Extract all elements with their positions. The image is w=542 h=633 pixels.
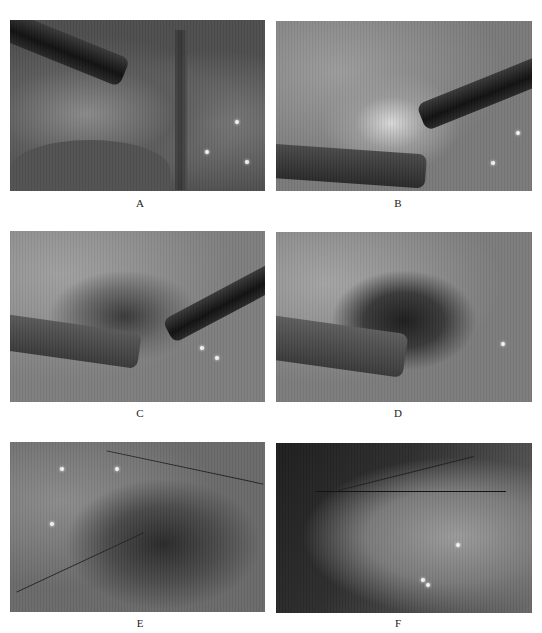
figure-panel-e (10, 442, 265, 612)
panel-label-f: F (388, 617, 408, 629)
panel-label-a: A (130, 197, 150, 209)
figure-panel-b (276, 21, 532, 191)
figure-panel-f (276, 443, 532, 613)
figure-panel-d (276, 232, 532, 402)
panel-label-d: D (388, 407, 408, 419)
figure-panel-a (10, 20, 265, 191)
panel-label-c: C (130, 407, 150, 419)
panel-label-e: E (130, 617, 150, 629)
figure-panel-c (10, 231, 265, 402)
panel-label-b: B (388, 197, 408, 209)
